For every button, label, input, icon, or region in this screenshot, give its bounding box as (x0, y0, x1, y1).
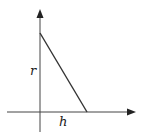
y-axis (37, 9, 44, 132)
x-axis-arrow-icon (127, 109, 136, 116)
hypotenuse (40, 33, 87, 112)
y-axis-arrow-icon (37, 9, 44, 18)
x-axis (7, 109, 136, 116)
triangle-diagram: r h (0, 0, 144, 135)
label-r: r (30, 63, 37, 78)
label-h: h (59, 114, 67, 129)
